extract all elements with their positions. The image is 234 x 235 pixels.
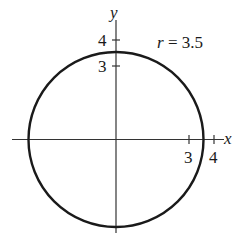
x-tick-label-3: 3: [184, 148, 193, 167]
polar-graph: y x 4 3 3 4 r = 3.5: [0, 0, 234, 235]
y-tick-label-3: 3: [98, 57, 107, 76]
equation-label: r = 3.5: [157, 33, 203, 52]
y-tick-label-4: 4: [98, 31, 107, 50]
y-axis-label: y: [108, 3, 118, 22]
x-axis-label: x: [223, 129, 232, 148]
equation-value: = 3.5: [164, 33, 203, 52]
x-tick-label-4: 4: [209, 148, 218, 167]
